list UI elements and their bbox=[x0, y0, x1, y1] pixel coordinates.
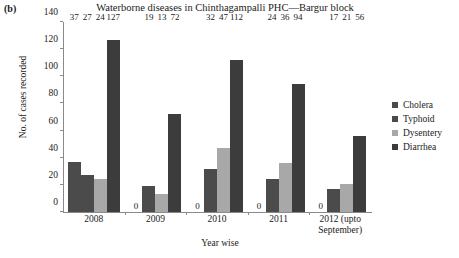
bar-value-label: 13 bbox=[157, 12, 166, 22]
bar-group: 0243694 bbox=[248, 22, 310, 212]
bar-value-label: 112 bbox=[230, 12, 243, 22]
bar-value-label: 0 bbox=[257, 201, 262, 211]
legend-label: Cholera bbox=[403, 100, 433, 110]
bar-column[interactable]: 27 bbox=[81, 22, 94, 212]
bar-column[interactable]: 94 bbox=[292, 22, 305, 212]
bar-group-bars: 0191372 bbox=[125, 22, 187, 212]
bar-column[interactable]: 37 bbox=[68, 22, 81, 212]
legend-item-typhoid[interactable]: Typhoid bbox=[392, 112, 442, 126]
legend-swatch-icon bbox=[392, 102, 398, 108]
bar-column[interactable]: 19 bbox=[142, 22, 155, 212]
bar-column[interactable]: 56 bbox=[353, 22, 366, 212]
bar-dysentery[interactable] bbox=[155, 194, 168, 212]
x-axis-tick-mark bbox=[186, 212, 187, 215]
bar-cholera[interactable] bbox=[68, 162, 81, 212]
bar-group-bars: 03247112 bbox=[186, 22, 248, 212]
y-axis-tick-label: 140 bbox=[44, 7, 63, 17]
bar-diarrhea[interactable] bbox=[230, 60, 243, 212]
bar-group: 0191372 bbox=[125, 22, 187, 212]
bar-value-label: 72 bbox=[170, 12, 179, 22]
bar-column[interactable]: 0 bbox=[253, 22, 266, 212]
bar-column[interactable]: 17 bbox=[327, 22, 340, 212]
bar-typhoid[interactable] bbox=[81, 175, 94, 212]
y-axis-tick-label: 100 bbox=[44, 61, 63, 71]
legend-swatch-icon bbox=[392, 116, 398, 122]
bar-column[interactable]: 36 bbox=[279, 22, 292, 212]
bar-column[interactable]: 0 bbox=[314, 22, 327, 212]
x-axis-tick-label: 2008 bbox=[63, 214, 125, 225]
bar-diarrhea[interactable] bbox=[107, 40, 120, 212]
x-axis-tick-line: 2009 bbox=[125, 214, 187, 225]
bar-value-label: 0 bbox=[195, 201, 200, 211]
bar-diarrhea[interactable] bbox=[292, 84, 305, 212]
bar-group-bars: 0172156 bbox=[309, 22, 371, 212]
bar-column[interactable]: 72 bbox=[168, 22, 181, 212]
y-axis-tick-label: 20 bbox=[49, 170, 64, 180]
plot-area: 0204060801001201403727241270191372032471… bbox=[63, 22, 371, 212]
legend-swatch-icon bbox=[392, 130, 398, 136]
x-axis-tick-line: 2011 bbox=[248, 214, 310, 225]
panel-letter: (b) bbox=[4, 3, 16, 14]
bar-column[interactable]: 112 bbox=[230, 22, 243, 212]
bar-diarrhea[interactable] bbox=[353, 136, 366, 212]
y-axis-tick-label: 40 bbox=[49, 143, 64, 153]
bar-dysentery[interactable] bbox=[340, 184, 353, 213]
bar-value-label: 0 bbox=[318, 201, 323, 211]
bar-value-label: 0 bbox=[134, 201, 139, 211]
y-axis-tick-label: 0 bbox=[53, 197, 63, 207]
x-axis-tick-line: 2008 bbox=[63, 214, 125, 225]
bar-typhoid[interactable] bbox=[204, 169, 217, 212]
bar-group: 0172156 bbox=[309, 22, 371, 212]
legend-item-cholera[interactable]: Cholera bbox=[392, 98, 442, 112]
bar-column[interactable]: 47 bbox=[217, 22, 230, 212]
bar-group-bars: 0243694 bbox=[248, 22, 310, 212]
bar-value-label: 127 bbox=[107, 12, 121, 22]
bar-column[interactable]: 127 bbox=[107, 22, 120, 212]
x-axis-tick-label: 2012 (uptoSeptember) bbox=[309, 214, 371, 236]
bar-group: 372724127 bbox=[63, 22, 125, 212]
bar-value-label: 24 bbox=[268, 12, 277, 22]
x-axis-title: Year wise bbox=[140, 238, 300, 248]
bar-value-label: 56 bbox=[355, 12, 364, 22]
bar-value-label: 17 bbox=[329, 12, 338, 22]
bar-typhoid[interactable] bbox=[142, 186, 155, 212]
y-axis-tick-label: 80 bbox=[49, 88, 64, 98]
y-axis-tick-label: 120 bbox=[44, 34, 63, 44]
chart-legend: CholeraTyphoidDysenteryDiarrhea bbox=[392, 98, 442, 154]
bar-value-label: 27 bbox=[83, 12, 92, 22]
bar-group-bars: 372724127 bbox=[63, 22, 125, 212]
bar-value-label: 37 bbox=[70, 12, 79, 22]
bar-column[interactable]: 0 bbox=[129, 22, 142, 212]
x-axis-tick-mark bbox=[248, 212, 249, 215]
x-axis-tick-line: September) bbox=[309, 225, 371, 236]
x-axis-tick-label: 2010 bbox=[186, 214, 248, 225]
bar-column[interactable]: 24 bbox=[266, 22, 279, 212]
x-axis-tick-line: 2010 bbox=[186, 214, 248, 225]
bar-column[interactable]: 0 bbox=[191, 22, 204, 212]
bar-column[interactable]: 13 bbox=[155, 22, 168, 212]
legend-item-diarrhea[interactable]: Diarrhea bbox=[392, 140, 442, 154]
legend-swatch-icon bbox=[392, 144, 398, 150]
bar-value-label: 19 bbox=[144, 12, 153, 22]
y-axis-title: No. of cases recorded bbox=[18, 22, 28, 172]
x-axis-tick-label: 2009 bbox=[125, 214, 187, 225]
bar-column[interactable]: 32 bbox=[204, 22, 217, 212]
x-axis-tick-mark bbox=[309, 212, 310, 215]
bar-column[interactable]: 24 bbox=[94, 22, 107, 212]
bar-column[interactable]: 21 bbox=[340, 22, 353, 212]
legend-label: Typhoid bbox=[403, 114, 435, 124]
legend-item-dysentery[interactable]: Dysentery bbox=[392, 126, 442, 140]
x-axis-tick-line: 2012 (upto bbox=[309, 214, 371, 225]
bar-dysentery[interactable] bbox=[217, 148, 230, 212]
bar-diarrhea[interactable] bbox=[168, 114, 181, 212]
x-axis-tick-mark bbox=[125, 212, 126, 215]
bar-typhoid[interactable] bbox=[266, 179, 279, 212]
x-axis-line bbox=[63, 212, 372, 213]
bar-typhoid[interactable] bbox=[327, 189, 340, 212]
bar-value-label: 94 bbox=[294, 12, 303, 22]
legend-label: Diarrhea bbox=[403, 142, 436, 152]
x-axis-tick-label: 2011 bbox=[248, 214, 310, 225]
bar-dysentery[interactable] bbox=[94, 179, 107, 212]
bar-value-label: 24 bbox=[96, 12, 105, 22]
bar-dysentery[interactable] bbox=[279, 163, 292, 212]
